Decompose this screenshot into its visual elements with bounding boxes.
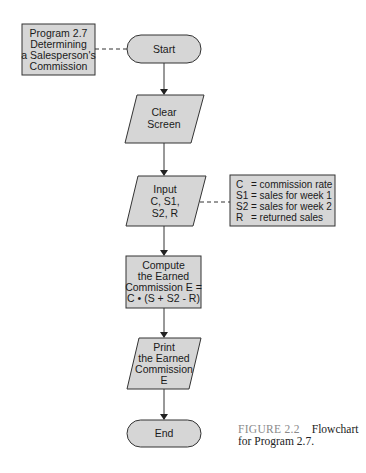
program-title-box: Program 2.7 Determining a Salesperson's …: [21, 24, 95, 75]
input-io: Input C, S1, S2, R: [126, 176, 206, 226]
legend-desc: = sales for week 2: [251, 201, 332, 212]
caption-line-1: Flowchart: [312, 423, 359, 435]
start-label: Start: [153, 43, 175, 55]
print-io: Print the Earned Commission E: [127, 338, 201, 389]
flowchart-canvas: Program 2.7 Determining a Salesperson's …: [0, 0, 366, 473]
input-line: Input: [153, 183, 176, 195]
figure-caption: FIGURE 2.2Flowchart for Program 2.7.: [238, 423, 358, 447]
clear-screen-io: Clear Screen: [125, 95, 204, 143]
legend-symbol: S1: [236, 190, 249, 201]
print-line: E: [160, 374, 167, 386]
legend-desc: = sales for week 1: [251, 190, 332, 201]
clear-line: Clear: [151, 106, 177, 118]
legend-symbol: R: [236, 212, 243, 223]
clear-line: Screen: [147, 118, 180, 130]
compute-line: C • (S + S2 - R): [127, 292, 200, 304]
title-line: Commission: [30, 60, 88, 72]
start-terminal: Start: [127, 35, 201, 63]
end-terminal: End: [127, 420, 201, 447]
caption-line-2: for Program 2.7.: [238, 435, 358, 447]
legend-desc: = returned sales: [251, 212, 323, 223]
input-line: C, S1,: [150, 195, 179, 207]
compute-process: Compute the Earned Commission E = C • (S…: [125, 256, 202, 308]
legend-desc: = commission rate: [251, 179, 333, 190]
legend-symbol: S2: [236, 201, 249, 212]
figure-label: FIGURE 2.2: [238, 423, 300, 435]
variable-legend-box: C = commission rate S1 = sales for week …: [230, 175, 335, 226]
legend-symbol: C: [236, 179, 243, 190]
end-label: End: [155, 427, 174, 439]
input-line: S2, R: [152, 207, 179, 219]
